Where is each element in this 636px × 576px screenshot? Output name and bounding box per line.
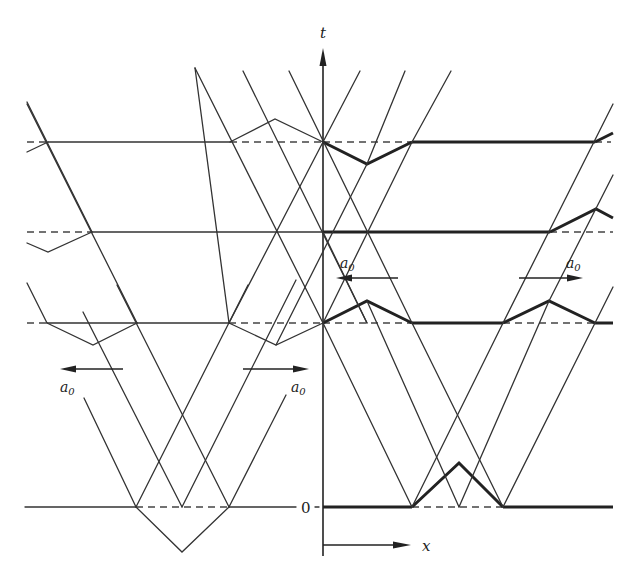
x-axis-label: x — [422, 537, 431, 555]
x-axis-arrow: x — [323, 537, 431, 555]
annotation-a0-mid-upper: a0 — [336, 255, 398, 282]
characteristics-diagram: t x 0 — [0, 0, 636, 576]
x-axis-arrowhead-icon — [393, 542, 411, 549]
characteristic-lines — [27, 68, 613, 507]
annotation-a0-mid-lower: a0 — [243, 366, 309, 398]
svg-text:a0: a0 — [60, 379, 75, 397]
right-half-solution — [323, 133, 613, 507]
svg-text:a0: a0 — [340, 255, 355, 273]
arrow-right-icon — [293, 366, 309, 373]
arrow-left-icon — [60, 366, 76, 373]
annotation-a0-left-lower: a0 — [60, 366, 123, 398]
svg-text:a0: a0 — [291, 379, 306, 397]
t-axis-label: t — [320, 24, 327, 42]
annotation-a0-right-upper: a0 — [519, 255, 583, 282]
t-axis: t — [320, 24, 328, 556]
pulse-t0 — [412, 463, 503, 507]
t-axis-arrowhead-icon — [320, 48, 327, 66]
zero-label: 0 — [301, 499, 311, 517]
inverted-pulse-t0 — [136, 507, 229, 552]
left-half-solution — [25, 119, 323, 552]
arrow-right-icon — [567, 275, 583, 282]
svg-text:a0: a0 — [566, 255, 581, 273]
